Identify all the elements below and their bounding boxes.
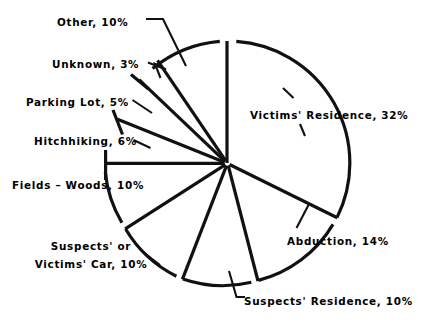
pie-label-fields-woods: Fields – Woods, 10% xyxy=(12,177,144,193)
pie-label-suspects-or-victims-car-line2: Victims' Car, 10% xyxy=(25,256,157,274)
pie-label-abduction: Abduction, 14% xyxy=(287,233,389,249)
slice-suspects-residence xyxy=(182,166,251,286)
slice-cap-parking-lot xyxy=(131,75,149,90)
leader-line-victims-residence-lower xyxy=(300,124,305,136)
pie-label-suspects-or-victims-car-line1: Suspects' or xyxy=(25,238,157,256)
slice-arc-victims-residence xyxy=(236,41,350,217)
slice-boundary-unknown-end xyxy=(158,60,226,160)
slice-parking-lot xyxy=(131,75,225,162)
leader-line-parking-lot xyxy=(133,100,153,113)
slice-boundary-parking-lot-end xyxy=(139,80,225,162)
slice-boundary-suspects-or-victims-car-end xyxy=(125,165,225,229)
pie-chart: Other, 10% Unknown, 3% Parking Lot, 5% H… xyxy=(0,0,446,325)
leader-line-victims-residence xyxy=(283,88,294,98)
slice-victims-residence xyxy=(227,41,350,218)
pie-label-other: Other, 10% xyxy=(57,14,128,30)
slice-abduction xyxy=(228,166,333,282)
slice-unknown xyxy=(158,60,226,160)
slice-boundary-victims-residence-end xyxy=(230,165,338,218)
slice-boundary-suspects-residence-end xyxy=(182,166,226,280)
slice-arc-suspects-residence xyxy=(183,279,251,286)
slice-boundary-abduction-end xyxy=(228,166,258,282)
pie-label-unknown: Unknown, 3% xyxy=(52,56,139,72)
pie-label-suspects-or-victims-car: Suspects' or Victims' Car, 10% xyxy=(25,238,157,273)
pie-chart-graphic xyxy=(0,0,446,325)
pie-label-victims-residence: Victims' Residence, 32% xyxy=(250,107,408,123)
pie-label-parking-lot: Parking Lot, 5% xyxy=(26,94,129,110)
leader-line-abduction xyxy=(297,205,309,228)
pie-label-hitchhiking: Hitchhiking, 6% xyxy=(34,133,137,149)
pie-label-suspects-residence: Suspects' Residence, 10% xyxy=(244,293,413,309)
